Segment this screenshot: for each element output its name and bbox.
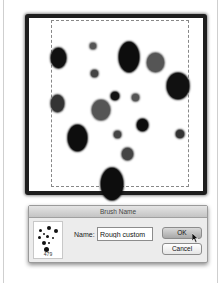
brush-preview-thumbnail: 479 xyxy=(33,221,63,259)
brush-dab xyxy=(68,125,87,151)
brush-dab xyxy=(90,43,96,49)
brush-name-dialog: Brush Name 479 Name: OK Cancel xyxy=(28,205,208,263)
brush-dab xyxy=(51,95,64,112)
brush-dab xyxy=(51,48,66,68)
brush-dab xyxy=(92,100,110,120)
brush-dab xyxy=(119,42,139,72)
brush-dab xyxy=(111,92,119,100)
brush-dab xyxy=(132,94,139,101)
brush-dab xyxy=(114,131,121,138)
name-label: Name: xyxy=(74,231,95,238)
brush-dab xyxy=(101,168,123,200)
brush-dab xyxy=(122,148,133,160)
marquee-selection xyxy=(51,20,189,187)
brush-canvas-frame xyxy=(25,14,207,195)
brush-dab xyxy=(167,73,189,99)
brush-dab xyxy=(137,119,148,131)
brush-dab xyxy=(176,130,184,138)
brush-dab xyxy=(91,70,98,77)
brush-dab xyxy=(147,53,164,72)
cancel-button[interactable]: Cancel xyxy=(162,243,202,255)
brush-canvas[interactable] xyxy=(29,18,203,191)
brush-size-label: 479 xyxy=(34,251,62,257)
dialog-title: Brush Name xyxy=(29,206,207,218)
brush-name-input[interactable] xyxy=(97,227,153,241)
mouse-pointer-icon xyxy=(192,233,200,243)
